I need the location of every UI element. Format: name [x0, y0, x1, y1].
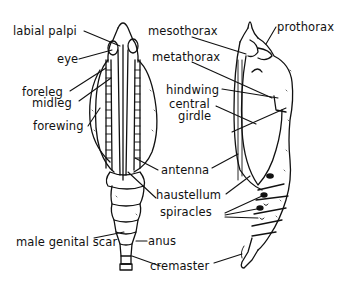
- label-haustellum: haustellum: [156, 190, 221, 202]
- label-hindwing: hindwing: [166, 85, 219, 97]
- label-forewing: forewing: [33, 121, 84, 133]
- label-antenna: antenna: [161, 165, 209, 177]
- ventral-view: [90, 23, 157, 270]
- label-anus: anus: [148, 236, 176, 248]
- label-eye: eye: [57, 54, 78, 66]
- label-labial-palpi: labial palpi: [13, 26, 77, 38]
- label-prothorax: prothorax: [277, 22, 334, 34]
- label-metathorax: metathorax: [152, 52, 220, 64]
- label-spiracles: spiracles: [160, 207, 212, 219]
- label-girdle: girdle: [178, 111, 211, 123]
- label-midleg: midleg: [32, 98, 72, 110]
- label-mesothorax: mesothorax: [148, 26, 218, 38]
- lateral-view: [234, 22, 293, 268]
- label-cremaster: cremaster: [150, 261, 209, 273]
- pupa-diagram: labial palpi eye foreleg midleg forewing…: [0, 0, 352, 285]
- label-male-genital-scar: male genital scar: [16, 237, 117, 249]
